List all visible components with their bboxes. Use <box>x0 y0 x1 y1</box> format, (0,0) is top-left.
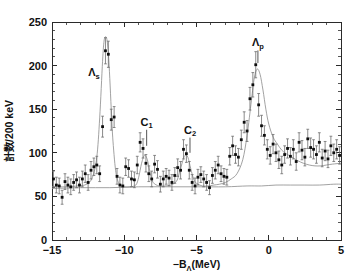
data-point <box>162 178 165 181</box>
data-point <box>234 153 237 156</box>
data-point <box>150 178 153 181</box>
data-point <box>269 154 272 157</box>
data-point <box>185 152 188 155</box>
data-point <box>246 130 249 133</box>
data-point <box>275 151 278 154</box>
data-point <box>321 157 324 160</box>
data-point <box>173 174 176 177</box>
data-point <box>78 184 81 187</box>
data-point <box>171 181 174 184</box>
y-tick-label: 0 <box>41 234 47 246</box>
y-tick-labels: 050100150200250 <box>29 16 47 246</box>
error-bars <box>52 38 341 205</box>
data-point <box>243 121 246 124</box>
data-point <box>64 180 67 183</box>
data-point <box>130 178 133 181</box>
data-point <box>303 156 306 159</box>
data-point <box>75 178 78 181</box>
data-point <box>223 175 226 178</box>
peak-label-c1: C1 <box>141 116 153 131</box>
data-point <box>165 175 168 178</box>
data-point <box>72 181 75 184</box>
figure-container: −15−10−505 050100150200250 ΛsC1C2Λp −BΛ(… <box>0 0 356 276</box>
data-point <box>52 178 55 181</box>
data-point <box>338 154 341 157</box>
data-point <box>69 185 72 188</box>
x-tick-label: −5 <box>190 244 203 256</box>
data-point <box>104 49 107 52</box>
y-tick-label: 100 <box>29 147 47 159</box>
data-point <box>251 83 254 86</box>
data-point <box>98 172 101 175</box>
data-point <box>179 169 182 172</box>
plot-frame <box>52 22 341 240</box>
data-point <box>113 116 116 119</box>
data-point <box>127 167 130 170</box>
data-point <box>136 164 139 167</box>
data-point <box>289 155 292 158</box>
data-point <box>81 178 84 181</box>
data-point <box>84 172 87 175</box>
data-point <box>121 185 124 188</box>
data-point <box>298 141 301 144</box>
y-tick-label: 250 <box>29 16 47 28</box>
data-point <box>257 103 260 106</box>
data-point <box>133 178 136 181</box>
data-point <box>231 144 234 147</box>
data-point <box>87 181 90 184</box>
data-point <box>107 53 110 56</box>
data-point <box>208 186 211 189</box>
data-point <box>292 148 295 151</box>
data-point <box>220 172 223 175</box>
data-point <box>217 164 220 167</box>
data-point <box>249 97 252 100</box>
plot-box <box>52 22 341 240</box>
spectrum-plot: −15−10−505 050100150200250 ΛsC1C2Λp −BΛ(… <box>0 0 356 276</box>
data-point <box>101 125 104 128</box>
data-point <box>260 124 263 127</box>
data-point <box>191 181 194 184</box>
data-point <box>156 168 159 171</box>
data-point <box>237 156 240 159</box>
data-point <box>329 144 332 147</box>
data-point <box>93 165 96 168</box>
data-point <box>254 63 257 66</box>
data-point <box>315 153 318 156</box>
data-point <box>335 148 338 151</box>
total-fit-curve <box>52 37 341 187</box>
data-point <box>145 162 148 165</box>
peak-label-lambda-s: Λs <box>88 66 100 81</box>
data-point <box>90 169 93 172</box>
data-point <box>142 147 145 150</box>
x-tick-labels: −15−10−505 <box>43 244 344 256</box>
data-point <box>228 155 231 158</box>
data-point <box>119 184 122 187</box>
data-point <box>153 163 156 166</box>
peak-label-c2: C2 <box>184 124 196 139</box>
data-point <box>61 196 64 199</box>
y-tick-label: 50 <box>35 190 47 202</box>
peak-annotations: ΛsC1C2Λp <box>88 36 264 152</box>
data-point <box>283 153 286 156</box>
data-point <box>312 148 315 151</box>
data-point <box>318 141 321 144</box>
data-point <box>332 151 335 154</box>
y-tick-label: 200 <box>29 60 47 72</box>
data-point <box>301 149 304 152</box>
data-point <box>66 184 69 187</box>
peak-label-lambda-p: Λp <box>252 36 264 51</box>
x-tick-label: 0 <box>266 244 272 256</box>
data-point <box>327 158 330 161</box>
data-point <box>58 185 61 188</box>
x-tick-label: −10 <box>115 244 134 256</box>
data-point <box>277 158 280 161</box>
data-point <box>286 147 289 150</box>
x-axis-title: −BΛ(MeV) <box>173 258 220 273</box>
data-point <box>214 169 217 172</box>
data-point <box>272 143 275 146</box>
data-point <box>280 164 283 167</box>
data-point <box>182 148 185 151</box>
data-point <box>194 185 197 188</box>
data-point <box>139 141 142 144</box>
data-point <box>225 176 228 179</box>
